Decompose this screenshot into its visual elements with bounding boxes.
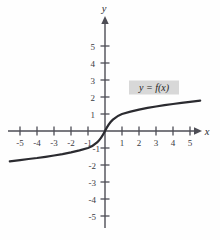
x-ticklabel-4: 4 bbox=[171, 138, 176, 148]
x-ticklabel--2: -2 bbox=[67, 138, 75, 148]
y-axis-arrowhead bbox=[101, 16, 108, 24]
y-ticklabel-5: 5 bbox=[91, 42, 96, 52]
x-ticklabel-1: 1 bbox=[120, 138, 125, 148]
x-ticklabel-2: 2 bbox=[137, 138, 142, 148]
y-axis-label: y bbox=[101, 3, 107, 14]
y-ticklabel--3: -3 bbox=[89, 178, 97, 188]
y-ticklabel-3: 3 bbox=[91, 76, 96, 86]
x-axis-label: x bbox=[204, 126, 210, 137]
x-ticklabel--1: -1 bbox=[84, 138, 92, 148]
x-axis-arrowhead bbox=[194, 127, 202, 134]
coordinate-plane: y = f(x) -5 -4 -3 -2 -1 1 2 3 4 5 5 4 3 … bbox=[0, 0, 220, 240]
y-ticklabel-4: 4 bbox=[91, 59, 96, 69]
y-ticklabel-2: 2 bbox=[91, 93, 96, 103]
function-label-text: y = f(x) bbox=[138, 82, 170, 94]
y-ticklabel--5: -5 bbox=[89, 212, 97, 222]
y-ticklabel--4: -4 bbox=[89, 195, 97, 205]
x-ticklabel--3: -3 bbox=[50, 138, 58, 148]
x-ticklabel-5: 5 bbox=[188, 138, 193, 148]
x-ticklabel--4: -4 bbox=[33, 138, 41, 148]
x-ticklabel--5: -5 bbox=[16, 138, 24, 148]
y-ticklabel--2: -2 bbox=[89, 161, 97, 171]
y-ticklabel--1: -1 bbox=[93, 144, 101, 154]
y-ticklabel-1: 1 bbox=[91, 110, 96, 120]
graph-figure: y = f(x) -5 -4 -3 -2 -1 1 2 3 4 5 5 4 3 … bbox=[0, 0, 220, 240]
x-ticklabel-3: 3 bbox=[154, 138, 159, 148]
